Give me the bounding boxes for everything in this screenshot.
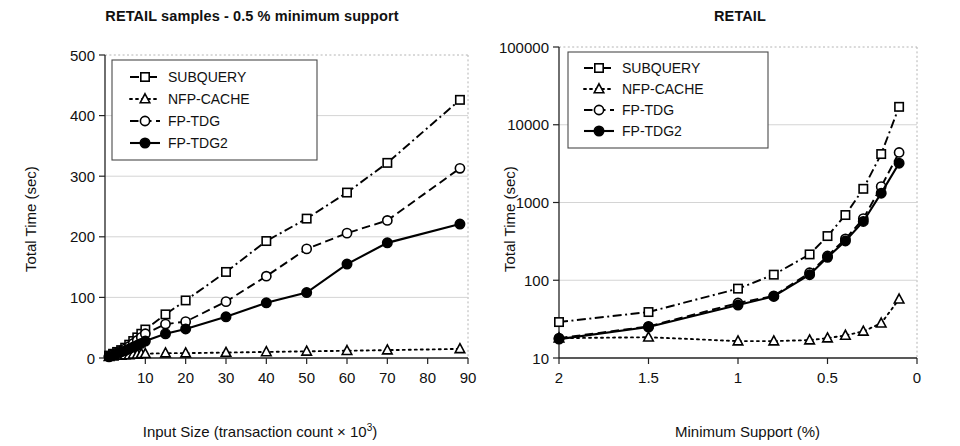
legend-marker-fp-tdg2: [594, 126, 603, 135]
data-point-subquery: [222, 268, 230, 276]
y-tick-label: 100000: [499, 39, 549, 56]
y-tick-label: 100: [524, 272, 549, 289]
data-point-fp-tdg2: [644, 322, 653, 331]
data-point-fp-tdg2: [877, 188, 886, 197]
y-tick-label: 200: [70, 228, 95, 245]
data-point-fp-tdg2: [805, 270, 814, 279]
y-tick-label: 400: [70, 107, 95, 124]
data-point-fp-tdg: [221, 297, 230, 306]
x-tick-label: 0.5: [817, 369, 838, 386]
legend-label: FP-TDG: [168, 113, 220, 129]
data-point-subquery: [734, 284, 742, 292]
x-tick-label: 2: [555, 369, 563, 386]
data-point-subquery: [841, 211, 849, 219]
data-point-subquery: [181, 296, 189, 304]
legend-marker-fp-tdg: [140, 116, 149, 125]
data-point-subquery: [770, 270, 778, 278]
y-tick-label: 10: [532, 350, 549, 367]
data-point-subquery: [302, 214, 310, 222]
legend: SUBQUERYNFP-CACHEFP-TDGFP-TDG2: [568, 52, 768, 148]
x-tick-label: 1.5: [638, 369, 659, 386]
legend: SUBQUERYNFP-CACHEFP-TDGFP-TDG2: [112, 60, 317, 160]
data-point-subquery: [805, 250, 813, 258]
chart-panel-left: RETAIL samples - 0.5 % minimum support T…: [0, 0, 480, 446]
data-point-fp-tdg2: [302, 288, 311, 297]
x-tick-label: 40: [258, 369, 275, 386]
x-tick-label: 10: [137, 369, 154, 386]
legend-marker-fp-tdg2: [140, 138, 149, 147]
data-point-fp-tdg2: [455, 219, 464, 228]
data-point-fp-tdg: [302, 244, 311, 253]
figure-root: RETAIL samples - 0.5 % minimum support T…: [0, 0, 960, 446]
data-point-subquery: [877, 150, 885, 158]
data-point-subquery: [555, 318, 563, 326]
data-point-fp-tdg2: [554, 334, 563, 343]
y-tick-label: 500: [70, 47, 95, 64]
data-point-fp-tdg2: [769, 292, 778, 301]
series-nfp-cache: [554, 294, 904, 345]
data-point-subquery: [859, 185, 867, 193]
legend-label: FP-TDG2: [168, 135, 228, 151]
data-point-fp-tdg: [895, 148, 904, 157]
plot-area-right: 1010010001000010000021.510.50SUBQUERYNFP…: [480, 0, 960, 446]
x-tick-label: 30: [218, 369, 235, 386]
x-tick-label: 60: [339, 369, 356, 386]
data-point-fp-tdg2: [262, 298, 271, 307]
legend-label: SUBQUERY: [622, 60, 701, 76]
data-point-nfp-cache: [894, 294, 904, 303]
data-point-fp-tdg2: [894, 159, 903, 168]
legend-label: SUBQUERY: [168, 69, 247, 85]
data-point-fp-tdg: [455, 164, 464, 173]
x-tick-label: 50: [298, 369, 315, 386]
data-point-subquery: [895, 103, 903, 111]
data-point-fp-tdg: [383, 216, 392, 225]
data-point-fp-tdg2: [141, 336, 150, 345]
y-tick-label: 1000: [516, 194, 549, 211]
legend-marker-fp-tdg: [594, 105, 603, 114]
data-point-fp-tdg2: [733, 300, 742, 309]
series-line-fp-tdg2: [559, 163, 899, 339]
data-point-fp-tdg: [342, 229, 351, 238]
series-fp-tdg: [104, 164, 464, 361]
data-point-fp-tdg2: [161, 329, 170, 338]
legend-label: FP-TDG: [622, 102, 674, 118]
data-point-subquery: [262, 237, 270, 245]
data-point-subquery: [383, 159, 391, 167]
y-tick-label: 10000: [507, 116, 549, 133]
series-fp-tdg: [554, 148, 903, 343]
data-point-fp-tdg2: [841, 236, 850, 245]
data-point-fp-tdg: [262, 272, 271, 281]
data-point-fp-tdg2: [823, 253, 832, 262]
data-point-fp-tdg2: [342, 259, 351, 268]
legend-marker-subquery: [595, 64, 603, 72]
data-point-subquery: [343, 188, 351, 196]
x-tick-label: 80: [419, 369, 436, 386]
plot-area-left: 0100200300400500102030405060708090SUBQUE…: [0, 0, 480, 446]
x-tick-label: 1: [734, 369, 742, 386]
chart-panel-right: RETAIL Total Time (sec) Minimum Support …: [480, 0, 960, 446]
data-point-subquery: [644, 308, 652, 316]
data-point-subquery: [456, 96, 464, 104]
data-point-fp-tdg2: [221, 312, 230, 321]
legend-marker-subquery: [141, 73, 149, 81]
x-tick-label: 20: [177, 369, 194, 386]
legend-label: FP-TDG2: [622, 123, 682, 139]
legend-label: NFP-CACHE: [168, 91, 250, 107]
series-fp-tdg2: [554, 159, 904, 344]
y-tick-label: 0: [87, 350, 95, 367]
data-point-fp-tdg2: [859, 217, 868, 226]
series-fp-tdg2: [104, 219, 464, 361]
series-line-fp-tdg: [109, 168, 460, 356]
x-tick-label: 70: [379, 369, 396, 386]
data-point-fp-tdg: [161, 319, 170, 328]
legend-label: NFP-CACHE: [622, 81, 704, 97]
data-point-subquery: [161, 310, 169, 318]
data-point-subquery: [823, 232, 831, 240]
y-tick-label: 100: [70, 289, 95, 306]
data-point-nfp-cache: [262, 347, 272, 356]
x-tick-label: 0: [913, 369, 921, 386]
x-tick-label: 90: [460, 369, 477, 386]
data-point-fp-tdg2: [383, 238, 392, 247]
data-point-fp-tdg2: [181, 324, 190, 333]
y-tick-label: 300: [70, 168, 95, 185]
